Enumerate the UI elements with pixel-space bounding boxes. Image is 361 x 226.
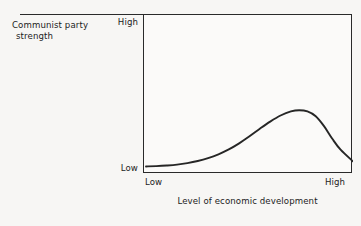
y-tick-label-high: High xyxy=(98,17,138,27)
x-axis-caption: Level of economic development xyxy=(143,196,352,206)
y-axis-caption-line-2: strength xyxy=(12,31,130,42)
communist-party-strength-curve xyxy=(146,110,353,166)
plot-area xyxy=(144,15,353,174)
x-tick-label-high: High xyxy=(325,177,345,187)
plot-frame xyxy=(143,14,352,173)
x-tick-label-low: Low xyxy=(145,177,162,187)
y-axis-caption-line-1: Communist party xyxy=(12,20,88,30)
figure-container: Communist party strength High Low Low Hi… xyxy=(0,0,361,226)
y-tick-label-low: Low xyxy=(98,163,138,173)
